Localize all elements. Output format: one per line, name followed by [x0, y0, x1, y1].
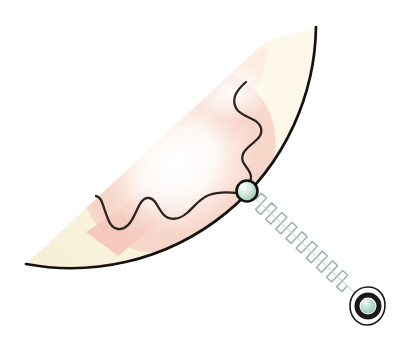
trapped-bead [350, 287, 385, 325]
illustration-canvas: Single-molecule force spectroscopy schem… [0, 0, 412, 351]
figure-root: Single-molecule force spectroscopy schem… [0, 0, 412, 351]
spring-axis-line [256, 199, 357, 296]
tether-bead [237, 181, 258, 202]
cell-sector-group [26, 10, 316, 292]
tether-bead-highlight [240, 184, 247, 191]
trapped-bead-highlight [362, 299, 367, 304]
plume-white-wash-upper [192, 62, 272, 122]
tether-bead-body [237, 181, 258, 202]
trapped-bead-core [360, 298, 375, 313]
force-spring [250, 193, 362, 301]
